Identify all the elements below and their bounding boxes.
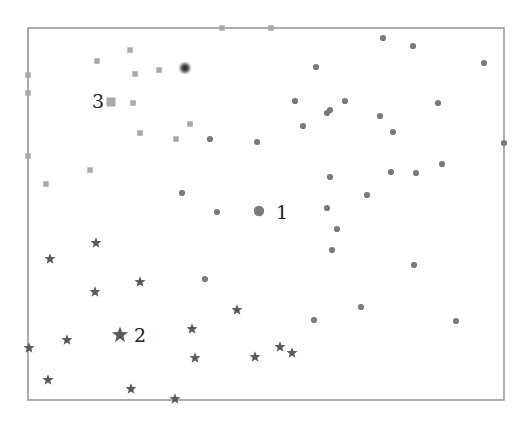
square-marker [127,47,133,53]
circle-marker [214,209,220,215]
square-marker [130,100,136,106]
square-marker [87,167,93,173]
star-marker [189,352,200,362]
star-marker [249,351,260,361]
circle-marker [411,262,417,268]
star-marker [186,323,197,333]
circle-marker [435,100,441,106]
cluster-label-3: 3 [92,90,104,112]
circle-marker [313,64,319,70]
circle-marker [380,35,386,41]
square-marker [173,136,179,142]
star-marker [23,342,34,352]
square-marker [137,130,143,136]
star-marker [61,334,72,344]
plot-frame [28,28,504,400]
circle-marker [377,113,383,119]
circle-marker [292,98,298,104]
circle-marker [329,247,335,253]
circle-marker [254,139,260,145]
circle-marker [439,161,445,167]
square-marker [187,121,193,127]
star-marker [231,304,242,314]
circle-marker [202,276,208,282]
circle-marker [501,140,507,146]
circle-marker [453,318,459,324]
star-marker [42,374,53,384]
cluster-label-1: 1 [276,201,288,223]
cluster-label-2: 2 [134,324,146,346]
circle-marker [364,192,370,198]
centroid-1-marker [254,206,264,216]
square-marker [43,181,49,187]
square-marker [268,25,274,31]
square-marker [132,71,138,77]
circle-marker [324,205,330,211]
circle-marker [327,174,333,180]
star-marker [274,341,285,351]
square-marker [25,153,31,159]
circle-marker [413,170,419,176]
square-marker [219,25,225,31]
circle-marker [358,304,364,310]
centroid-3-marker [107,98,116,107]
circle-marker [388,169,394,175]
star-marker [286,347,297,357]
circle-marker [327,107,333,113]
star-marker [125,383,136,393]
circle-marker [311,317,317,323]
circle-marker [342,98,348,104]
square-marker [94,58,100,64]
blurred-dot-marker [178,61,192,75]
circle-marker [481,60,487,66]
star-marker [134,276,145,286]
star-marker [169,393,180,403]
data-markers [23,25,507,403]
scatter-plot: 123 [0,0,532,425]
star-marker [89,286,100,296]
circle-marker [390,129,396,135]
square-marker [25,72,31,78]
circle-marker [300,123,306,129]
circle-marker [207,136,213,142]
circle-marker [334,226,340,232]
square-marker [25,90,31,96]
circle-marker [410,43,416,49]
square-marker [156,67,162,73]
cluster-labels: 123 [92,90,288,346]
star-marker [90,237,101,247]
cluster-centroids [107,98,265,342]
centroid-2-marker [112,327,128,342]
star-marker [44,253,55,263]
circle-marker [179,190,185,196]
